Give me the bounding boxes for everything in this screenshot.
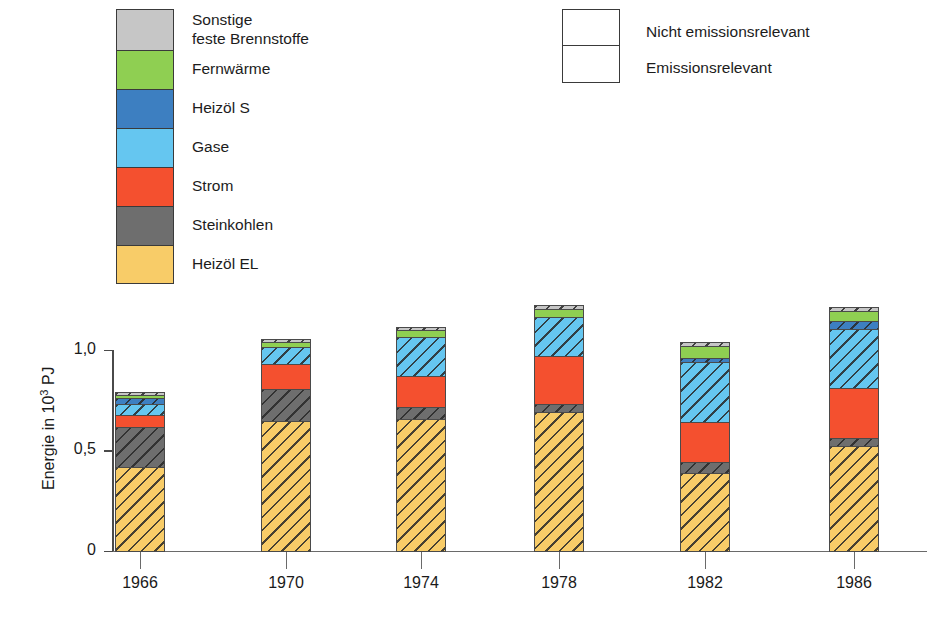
y-tick-label-2: 1,0 bbox=[26, 340, 96, 358]
legend-label-heizoel_s: Heizöl S bbox=[192, 98, 250, 117]
bar-segment-1970-strom[interactable] bbox=[262, 365, 310, 390]
legend-label-strom: Strom bbox=[192, 176, 233, 195]
x-axis-line bbox=[112, 551, 927, 553]
y-axis-label-exponent: 3 bbox=[38, 390, 50, 396]
y-tick-label-1: 0,5 bbox=[26, 440, 96, 458]
x-tick-1966 bbox=[140, 552, 141, 569]
legend-swatch-gase bbox=[116, 128, 174, 167]
x-tick-1986 bbox=[854, 552, 855, 569]
bar-segment-1970-gase[interactable] bbox=[262, 348, 310, 364]
bar-segment-1970-steinkohlen[interactable] bbox=[262, 390, 310, 422]
legend-swatch-steinkohlen bbox=[116, 206, 174, 245]
legend-label-steinkohlen: Steinkohlen bbox=[192, 215, 273, 234]
bar-segment-1986-fernwaerme[interactable] bbox=[830, 312, 878, 322]
bar-1974[interactable] bbox=[396, 327, 446, 552]
legend-hatch-label-0: Nicht emissionsrelevant bbox=[646, 23, 810, 41]
x-tick-label-1978: 1978 bbox=[514, 574, 604, 592]
bar-segment-1978-gase[interactable] bbox=[535, 318, 583, 356]
bar-segment-1966-strom[interactable] bbox=[116, 416, 164, 428]
x-tick-label-1966: 1966 bbox=[95, 574, 185, 592]
bar-segment-1974-steinkohlen[interactable] bbox=[397, 408, 445, 420]
bar-segment-1966-heizoel_el[interactable] bbox=[116, 468, 164, 551]
legend-swatch-heizoel_el bbox=[116, 245, 174, 284]
legend-swatch-heizoel_s bbox=[116, 89, 174, 128]
bar-segment-1974-strom[interactable] bbox=[397, 377, 445, 408]
bar-segment-1978-strom[interactable] bbox=[535, 357, 583, 405]
bar-1986[interactable] bbox=[829, 307, 879, 552]
legend-label-heizoel_el: Heizöl EL bbox=[192, 254, 258, 273]
legend-label-fernwaerme: Fernwärme bbox=[192, 59, 270, 78]
x-tick-1982 bbox=[705, 552, 706, 569]
legend-hatch-label-1: Emissionsrelevant bbox=[646, 59, 772, 77]
chart-plot-area: Energie in 103 PJ 00,51,0 19661970197419… bbox=[0, 300, 944, 635]
legend-color-swatches bbox=[116, 9, 174, 284]
legend-swatch-sonstige bbox=[116, 9, 174, 50]
bar-segment-1982-gase[interactable] bbox=[681, 363, 729, 423]
x-tick-label-1982: 1982 bbox=[660, 574, 750, 592]
x-tick-1978 bbox=[559, 552, 560, 569]
legend-hatch-plain-swatch bbox=[563, 10, 619, 46]
bar-segment-1982-steinkohlen[interactable] bbox=[681, 463, 729, 474]
bar-segment-1974-fernwaerme[interactable] bbox=[397, 331, 445, 338]
bar-segment-1970-heizoel_el[interactable] bbox=[262, 422, 310, 552]
legend-hatch-swatch bbox=[562, 9, 620, 83]
legend-label-gase: Gase bbox=[192, 137, 229, 156]
legend-swatch-strom bbox=[116, 167, 174, 206]
bar-segment-1966-gase[interactable] bbox=[116, 405, 164, 416]
bar-segment-1986-gase[interactable] bbox=[830, 330, 878, 388]
legend-swatch-fernwaerme bbox=[116, 50, 174, 89]
bar-1978[interactable] bbox=[534, 305, 584, 552]
legend-label-sonstige: Sonstige feste Brennstoffe bbox=[192, 10, 309, 48]
legend-hatch-hatched-swatch bbox=[563, 46, 619, 82]
y-tick-1 bbox=[104, 450, 113, 452]
y-tick-0 bbox=[104, 551, 113, 553]
bar-segment-1978-heizoel_el[interactable] bbox=[535, 413, 583, 552]
bar-segment-1986-heizoel_el[interactable] bbox=[830, 447, 878, 552]
bar-segment-1982-strom[interactable] bbox=[681, 423, 729, 463]
x-tick-label-1986: 1986 bbox=[809, 574, 899, 592]
bar-1970[interactable] bbox=[261, 339, 311, 552]
y-tick-2 bbox=[104, 350, 113, 352]
x-tick-label-1974: 1974 bbox=[376, 574, 466, 592]
bar-segment-1982-heizoel_el[interactable] bbox=[681, 474, 729, 551]
bar-1966[interactable] bbox=[115, 392, 165, 553]
bar-segment-1986-heizoel_s[interactable] bbox=[830, 322, 878, 330]
bar-segment-1986-steinkohlen[interactable] bbox=[830, 439, 878, 447]
x-tick-1970 bbox=[286, 552, 287, 569]
y-axis-label-post: PJ bbox=[40, 366, 57, 389]
bar-segment-1982-fernwaerme[interactable] bbox=[681, 347, 729, 358]
bar-segment-1978-steinkohlen[interactable] bbox=[535, 405, 583, 413]
bar-1982[interactable] bbox=[680, 342, 730, 552]
y-tick-label-0: 0 bbox=[26, 541, 96, 559]
bar-segment-1978-fernwaerme[interactable] bbox=[535, 310, 583, 318]
x-tick-1974 bbox=[421, 552, 422, 569]
bar-segment-1974-gase[interactable] bbox=[397, 338, 445, 376]
bar-segment-1986-strom[interactable] bbox=[830, 389, 878, 439]
bar-segment-1974-heizoel_el[interactable] bbox=[397, 420, 445, 552]
bar-segment-1966-steinkohlen[interactable] bbox=[116, 428, 164, 468]
x-tick-label-1970: 1970 bbox=[241, 574, 331, 592]
